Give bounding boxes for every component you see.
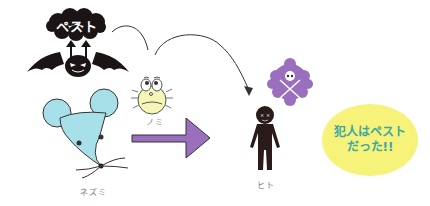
human-label: ヒト [257, 179, 275, 190]
arc-flea-to-human [155, 35, 248, 88]
svg-text:×: × [266, 112, 270, 118]
big-right-arrow-icon [132, 118, 210, 158]
bat-devil-icon [27, 40, 129, 77]
conclusion-text: 犯人はペスト だった!! [320, 125, 420, 155]
pest-label: ペスト [56, 16, 98, 35]
conclusion-line-1: 犯人はペスト [320, 125, 420, 140]
rat-label: ネズミ [80, 186, 107, 197]
flea-label: ノミ [146, 116, 164, 127]
person-icon: × × [250, 106, 280, 170]
mouse-icon [43, 89, 128, 178]
arc-pest-to-flea [112, 26, 148, 50]
poison-cloud [267, 58, 313, 106]
flea-icon [131, 77, 173, 114]
conclusion-line-2: だった!! [320, 140, 420, 155]
svg-text:×: × [260, 112, 264, 118]
arrowhead-icon [244, 86, 253, 96]
